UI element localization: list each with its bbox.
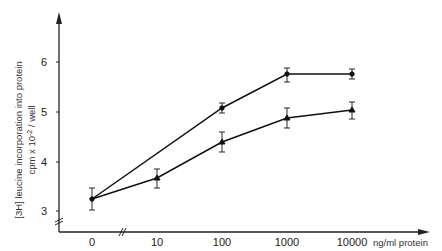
x-tick-100: 100	[213, 236, 231, 248]
y-tick-3: 3	[41, 205, 47, 217]
svg-text:[3H] leucine incorporation int: [3H] leucine incorporation into protein	[13, 61, 24, 218]
x-tick-10: 10	[151, 236, 163, 248]
y-axis-label: [3H] leucine incorporation into protein …	[13, 61, 37, 218]
x-tick-10000: 10000	[337, 236, 368, 248]
svg-text:cpm x 10-2 / well: cpm x 10-2 / well	[26, 105, 37, 174]
y-tick-5: 5	[41, 106, 47, 118]
x-axis-label: ng/ml protein	[373, 237, 428, 248]
series-triangle	[92, 102, 355, 199]
y-axis-arrow-icon	[56, 12, 62, 24]
x-tick-0: 0	[89, 236, 95, 248]
x-tick-1000: 1000	[275, 236, 299, 248]
chart: 6 5 4 3 0 10 100 1000 10000 ng/ml protei…	[0, 0, 442, 251]
y-tick-4: 4	[41, 156, 47, 168]
y-tick-6: 6	[41, 56, 47, 68]
x-axis-arrow-icon	[418, 229, 430, 235]
